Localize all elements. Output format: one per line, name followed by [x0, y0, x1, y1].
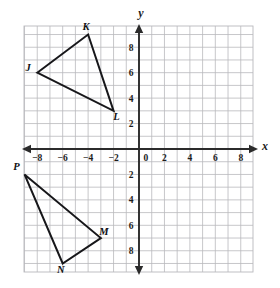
vertex-label-l: L: [112, 111, 119, 122]
x-tick-label-8: 8: [238, 153, 243, 163]
vertex-label-m: M: [98, 226, 109, 237]
x-tick-label-4: 4: [188, 153, 193, 163]
y-axis-name-label: y: [136, 6, 144, 20]
vertex-label-k: K: [82, 21, 91, 32]
x-tick-label-2: 2: [162, 153, 167, 163]
y-tick-label-6: 6: [129, 68, 134, 78]
vertex-label-p: P: [13, 161, 20, 172]
x-tick-label-6: 6: [213, 153, 218, 163]
vertex-label-j: J: [25, 62, 32, 73]
x-axis-name-label: x: [261, 139, 268, 153]
y-tick-label-8: 8: [129, 43, 134, 53]
y-tick-label-2: 2: [129, 119, 134, 129]
y-tick-label--4: 4: [129, 195, 134, 205]
y-tick-label-4: 4: [129, 94, 134, 104]
x-tick-label--8: −8: [32, 153, 42, 163]
y-tick-label--6: 6: [129, 221, 134, 231]
y-tick-label--2: 2: [129, 170, 134, 180]
vertex-label-n: N: [56, 264, 65, 275]
x-tick-label--6: −6: [58, 153, 68, 163]
x-tick-label--2: −2: [108, 153, 118, 163]
y-tick-label--8: 8: [129, 246, 134, 256]
x-tick-label-0: 0: [144, 153, 149, 163]
x-axis-arrow-right: [249, 145, 258, 153]
x-tick-label--4: −4: [83, 153, 93, 163]
coordinate-plane-svg: −8−6−4−20246886422468 JKLPMN xy: [0, 0, 280, 288]
